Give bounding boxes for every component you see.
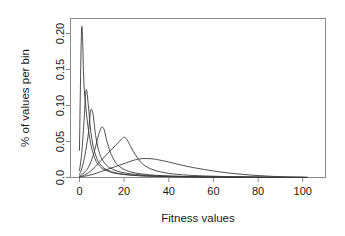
density-line-chart: 0.0 0.05 0.10 0.15 0.20 % of values per … [0, 0, 345, 236]
chart-figure: 0.0 0.05 0.10 0.15 0.20 % of values per … [0, 0, 345, 236]
x-axis-title: Fitness values [161, 212, 235, 224]
x-tick-label: 20 [118, 185, 130, 197]
x-tick-label: 80 [252, 185, 264, 197]
y-tick-label: 0.10 [54, 95, 66, 116]
chart-background [0, 0, 345, 236]
y-tick-label: 0.0 [54, 170, 66, 185]
x-tick-label: 0 [76, 185, 82, 197]
y-axis-title: % of values per bin [19, 49, 31, 147]
y-tick-label: 0.05 [54, 131, 66, 152]
x-tick-label: 60 [207, 185, 219, 197]
x-tick-label: 40 [163, 185, 175, 197]
y-tick-label: 0.20 [54, 23, 66, 44]
y-tick-label: 0.15 [54, 59, 66, 80]
x-tick-label: 100 [294, 185, 312, 197]
